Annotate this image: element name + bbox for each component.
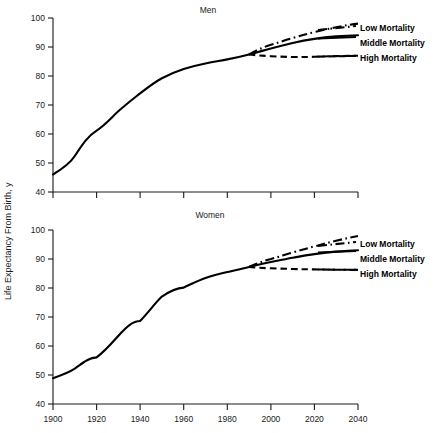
legend-label-high-mortality: High Mortality (360, 269, 417, 279)
panel-women-title: Women (195, 210, 224, 220)
x-tick-label: 1900 (44, 414, 63, 424)
y-tick-label: 40 (36, 187, 46, 197)
y-tick-label: 50 (36, 158, 46, 168)
legend-swatch-middle-mortality (318, 251, 356, 253)
chart-canvas: Life Expectancy From Birth, y Men 100 90… (0, 0, 442, 433)
y-tick-label: 80 (36, 283, 46, 293)
y-tick-label: 80 (36, 71, 46, 81)
legend-label-low-mortality: Low Mortality (360, 239, 415, 249)
x-tick-label: 2020 (305, 414, 324, 424)
legend-women: Low Mortality Middle Mortality High Mort… (318, 239, 425, 279)
y-tick-label: 70 (36, 100, 46, 110)
panel-men-title: Men (200, 5, 217, 15)
x-tick-label: 1920 (87, 414, 106, 424)
x-tick-label: 2040 (349, 414, 368, 424)
legend-label-middle-mortality: Middle Mortality (360, 254, 425, 264)
panel-men-y-ticks (48, 18, 53, 192)
legend-men: Low Mortality Middle Mortality High Mort… (318, 23, 425, 63)
y-tick-label: 100 (31, 225, 45, 235)
panel-men-y-tick-labels: 100 90 80 70 60 50 40 (31, 13, 45, 197)
panel-women-axes (53, 230, 358, 404)
panel-women: Women 100 90 80 70 60 50 40 (31, 210, 425, 424)
life-expectancy-figure: Life Expectancy From Birth, y Men 100 90… (0, 0, 442, 433)
y-axis-title-text: Life Expectancy From Birth, y (3, 182, 13, 300)
y-tick-label: 60 (36, 129, 46, 139)
legend-label-high-mortality: High Mortality (360, 53, 417, 63)
y-tick-label: 50 (36, 370, 46, 380)
panel-women-y-tick-labels: 100 90 80 70 60 50 40 (31, 225, 45, 409)
panel-women-x-tick-labels: 1900 1920 1940 1960 1980 2000 2020 2040 (44, 414, 368, 424)
panel-men-x-ticks (53, 192, 358, 198)
x-tick-label: 1960 (174, 414, 193, 424)
panel-women-x-ticks (53, 404, 358, 410)
legend-swatch-middle-mortality (318, 37, 356, 39)
y-tick-label: 40 (36, 399, 46, 409)
panel-men: Men 100 90 80 70 60 50 40 (31, 5, 425, 198)
y-tick-label: 70 (36, 312, 46, 322)
x-tick-label: 2000 (261, 414, 280, 424)
y-tick-label: 60 (36, 341, 46, 351)
legend-label-low-mortality: Low Mortality (360, 23, 415, 33)
panel-men-axes (53, 18, 358, 192)
y-axis-title: Life Expectancy From Birth, y (3, 182, 13, 300)
x-tick-label: 1940 (131, 414, 150, 424)
y-tick-label: 90 (36, 42, 46, 52)
y-tick-label: 100 (31, 13, 45, 23)
x-tick-label: 1980 (218, 414, 237, 424)
y-tick-label: 90 (36, 254, 46, 264)
legend-label-middle-mortality: Middle Mortality (360, 38, 425, 48)
